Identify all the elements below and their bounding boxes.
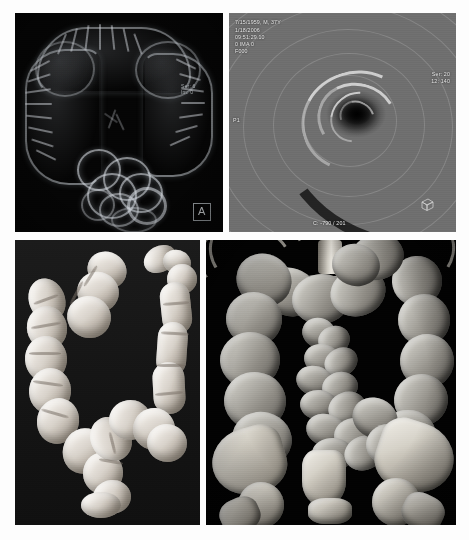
panel-d-render (206, 240, 456, 525)
panel-b-window-level-text: C: -790 / 201 (313, 220, 346, 227)
figure-container: Ser: 6 Im: 0 A (0, 0, 469, 540)
panel-b-header-line-4: 0 IMA 0 (235, 41, 254, 48)
panel-b-left-marker: P1 (233, 117, 240, 124)
panel-b-right-line-2: 12: 140 (431, 78, 450, 85)
panel-a-overlay-text: Ser: 6 Im: 0 (181, 83, 196, 95)
panel-a-translucent-colon[interactable]: Ser: 6 Im: 0 A (15, 13, 223, 232)
panel-a-letter-label: A (193, 203, 211, 221)
panel-a-render: Ser: 6 Im: 0 A (15, 13, 223, 232)
panel-d-volume-rendered-abdomen[interactable] (206, 240, 456, 525)
panel-c-render (15, 240, 200, 525)
panel-b-right-line-1: Ser: 20 (432, 71, 450, 78)
panel-b-render: 7/15/1959, M, 37Y 1/18/2006 09:51:29.10 … (229, 13, 456, 232)
orientation-cube-icon (419, 197, 436, 212)
panel-b-header-line-3: 09:51:29.10 (235, 34, 265, 41)
panel-c-surface-rendered-colon[interactable] (15, 240, 200, 525)
panel-b-header-line-1: 7/15/1959, M, 37Y (235, 19, 281, 26)
panel-b-header-line-2: 1/18/2006 (235, 27, 260, 34)
panel-b-header-line-5: F000 (235, 48, 248, 55)
panel-b-virtual-endoscopy[interactable]: 7/15/1959, M, 37Y 1/18/2006 09:51:29.10 … (229, 13, 456, 232)
